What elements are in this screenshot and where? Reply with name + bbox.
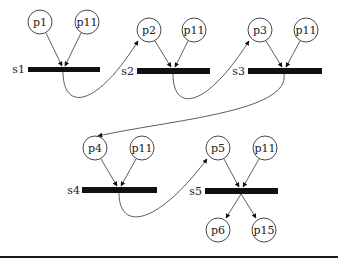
- place-label-p1: p1: [33, 16, 47, 29]
- arc-p11-s4: [121, 159, 136, 186]
- transition-bar-s3: [248, 68, 322, 74]
- place-label-p5: p5: [211, 142, 225, 155]
- place-label-p11: p11: [183, 24, 204, 37]
- arc-p3-s3: [266, 41, 282, 67]
- arc-s5-p15: [241, 194, 256, 218]
- transition-group-s5: p5 p11 s5 p6 p15: [189, 136, 278, 242]
- arc-p1-s1: [46, 33, 62, 66]
- transition-group-s1: p1 p11 s1: [12, 10, 138, 97]
- transition-label-s5: s5: [189, 185, 202, 198]
- place-label-p15: p15: [253, 224, 274, 237]
- arc-s5-p6: [226, 194, 241, 218]
- place-label-p4: p4: [88, 142, 102, 155]
- arc-p11-s2: [175, 41, 188, 67]
- transition-label-s1: s1: [12, 63, 25, 76]
- arc-p11-s5: [243, 159, 259, 187]
- arc-p5-s5: [224, 159, 239, 187]
- place-label-p2: p2: [142, 24, 156, 37]
- petri-net-diagram: p1 p11 s1 p2 p11 s2 p3 p11 s3 p4 p1: [0, 0, 338, 260]
- place-label-p11: p11: [131, 142, 152, 155]
- transition-bar-s1: [28, 67, 100, 72]
- arc-p11-s1: [65, 33, 81, 66]
- transition-label-s3: s3: [232, 65, 245, 78]
- place-label-p11: p11: [254, 142, 275, 155]
- transition-bar-s2: [137, 68, 210, 74]
- place-label-p3: p3: [253, 24, 267, 37]
- transition-bar-s5: [205, 188, 278, 194]
- arc-s3-p4: [98, 74, 284, 136]
- place-label-p11: p11: [76, 16, 97, 29]
- place-label-p6: p6: [211, 224, 225, 237]
- arc-p2-s2: [155, 41, 171, 67]
- transition-group-s2: p2 p11 s2: [121, 18, 249, 99]
- arc-p4-s4: [101, 159, 117, 186]
- arc-p11-s3: [286, 41, 300, 67]
- transition-label-s2: s2: [121, 65, 134, 78]
- transition-group-s4: p4 p11 s4: [67, 136, 207, 217]
- bottom-divider: [0, 256, 338, 258]
- transition-label-s4: s4: [67, 184, 80, 197]
- place-label-p11: p11: [295, 24, 316, 37]
- transition-bar-s4: [82, 187, 157, 193]
